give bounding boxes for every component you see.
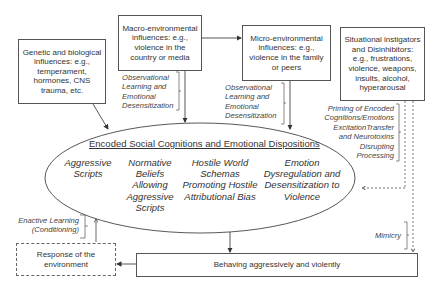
genetic-influences-text: Genetic and biological influences: e.g.,… [21,48,103,96]
macro-environment-box: Macro-environmental influences: e.g., vi… [118,15,202,71]
mimicry-label: Mimicry [375,231,401,240]
bracket-priming [396,104,401,161]
enactive-learning-label: Enactive Learning (Conditioning) [18,216,79,235]
bracket-mimicry [404,222,409,249]
ellipse-item-aggressive-scripts: Aggressive Scripts [58,157,118,179]
ellipse-item-hostile-world-schemas: Hostile World Schemas Promoting Hostile … [182,157,258,202]
priming-label: Priming of Encoded Cognitions/Emotions E… [322,104,394,160]
micro-environment-box: Micro-environmental influences: e.g., vi… [242,25,331,81]
micro-environment-text: Micro-environmental influences: e.g., vi… [245,34,328,72]
arrow-genetic-to-ellipse [93,104,108,129]
bracket-enactive [80,215,88,238]
genetic-influences-box: Genetic and biological influences: e.g.,… [18,39,106,104]
micro-learning-label: Observational Learning and Emotional Des… [225,83,283,121]
situational-instigators-box: Situational instigators and Disinhibitor… [340,27,425,101]
behaving-aggressively-text: Behaving aggressively and violently [214,260,341,270]
macro-learning-label: Observational Learning and Emotional Des… [122,73,178,111]
ellipse-item-emotion-dysregulation: Emotion Dysregulation and Desensitizatio… [260,157,344,202]
ellipse-title: Encoded Social Cognitions and Emotional … [89,138,320,149]
behaving-aggressively-box: Behaving aggressively and violently [136,253,418,277]
ellipse-item-normative-beliefs: Normative Beliefs Allowing Aggressive Sc… [120,157,180,213]
macro-environment-text: Macro-environmental influences: e.g., vi… [121,24,199,62]
response-environment-text: Response of the environment [19,250,113,269]
situational-instigators-text: Situational instigators and Disinhibitor… [343,35,422,93]
response-environment-box: Response of the environment [16,243,116,276]
